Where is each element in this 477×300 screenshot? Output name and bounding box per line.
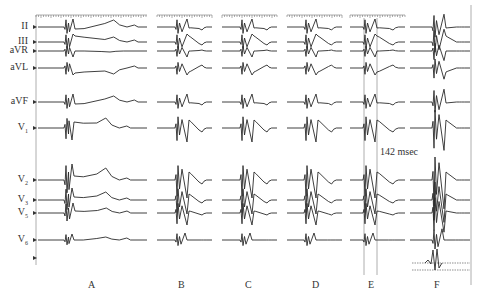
trace-v1 xyxy=(222,117,277,142)
trace-v1 xyxy=(410,110,470,150)
trace-iii xyxy=(287,34,342,48)
trace-avr xyxy=(350,46,405,57)
trace-v2 xyxy=(410,157,470,209)
lead-marker-icon xyxy=(33,100,37,104)
trace-v2 xyxy=(38,164,147,193)
panel-f-traces xyxy=(410,14,470,249)
trace-ii xyxy=(287,19,342,33)
lead-marker-icon xyxy=(33,178,37,182)
trace-avr xyxy=(287,46,342,57)
trace-avr xyxy=(157,46,212,57)
trace-avf xyxy=(157,94,212,108)
panel-label-f: F xyxy=(434,279,440,290)
trace-v3 xyxy=(38,188,147,210)
trace-ii xyxy=(350,19,405,33)
panel-label-b: B xyxy=(178,279,185,290)
trace-v3 xyxy=(410,182,470,222)
trace-iii xyxy=(157,34,212,48)
lead-label-avf: aVF xyxy=(0,96,28,106)
lead-marker-icon xyxy=(33,126,37,130)
panel-f-inset xyxy=(412,249,470,270)
trace-v6 xyxy=(38,234,147,245)
lead-label-avl: aVL xyxy=(0,62,28,72)
lead-marker-icon xyxy=(33,25,37,29)
trace-v5 xyxy=(38,203,147,221)
trace-avf xyxy=(222,94,277,108)
panel-label-d: D xyxy=(312,279,319,290)
trace-v2 xyxy=(350,166,405,198)
trace-iii xyxy=(38,34,147,48)
lead-marker-icon xyxy=(33,256,37,260)
trace-v6 xyxy=(287,233,342,246)
lead-marker-icon xyxy=(33,238,37,242)
panel-b-traces xyxy=(157,19,212,246)
trace-v2 xyxy=(157,166,212,198)
trace-ii xyxy=(38,19,147,33)
trace-v6 xyxy=(157,233,212,246)
trace-avl xyxy=(287,62,342,75)
trace-v5 xyxy=(350,203,405,225)
lead-marker-icon xyxy=(33,211,37,215)
trace-ii xyxy=(222,19,277,33)
lead-label-v2: V2 xyxy=(0,174,28,188)
lead-label-v5: V5 xyxy=(0,207,28,221)
lead-label-v1: V1 xyxy=(0,122,28,136)
trace-avf xyxy=(38,94,147,108)
trace-v3 xyxy=(157,189,212,214)
trace-v2 xyxy=(222,166,277,198)
panel-d-traces xyxy=(287,19,342,246)
panel-e-traces xyxy=(350,19,405,246)
trace-v3 xyxy=(350,189,405,214)
trace-avf xyxy=(350,94,405,108)
lead-marker-icon xyxy=(33,49,37,53)
lead-label-v6: V6 xyxy=(0,234,28,248)
panel-a-traces xyxy=(38,19,147,245)
lead-label-avr: aVR xyxy=(0,45,28,55)
trace-v1 xyxy=(350,117,405,142)
trace-v6 xyxy=(222,233,277,246)
trace-iii xyxy=(350,34,405,48)
trace-v1 xyxy=(157,117,212,142)
trace-avl xyxy=(222,62,277,75)
trace-v3 xyxy=(222,189,277,214)
trace-avl xyxy=(410,59,470,79)
trace-avf xyxy=(410,89,470,112)
lead-marker-icon xyxy=(33,66,37,70)
trace-avl xyxy=(157,62,212,75)
interval-annotation: 142 msec xyxy=(380,146,418,157)
trace-v2 xyxy=(287,166,342,198)
trace-avf xyxy=(287,94,342,108)
lead-marker-icon xyxy=(33,198,37,202)
trace-avr xyxy=(222,46,277,57)
trace-avl xyxy=(38,62,147,75)
panel-label-a: A xyxy=(88,279,95,290)
trace-avr xyxy=(38,46,147,57)
lead-label-ii: II xyxy=(0,21,28,31)
panel-c-traces xyxy=(222,19,277,246)
lead-marker-icon xyxy=(33,40,37,44)
trace-ii xyxy=(157,19,212,33)
trace-ii xyxy=(410,14,470,37)
trace-v6 xyxy=(410,229,470,249)
panel-label-c: C xyxy=(245,279,252,290)
trace-v6 xyxy=(350,233,405,246)
panel-label-e: E xyxy=(368,279,374,290)
trace-v5 xyxy=(157,203,212,225)
trace-v3 xyxy=(287,189,342,214)
trace-iii xyxy=(222,34,277,48)
trace-v5 xyxy=(222,203,277,225)
trace-avl xyxy=(350,62,405,75)
trace-v1 xyxy=(38,118,147,140)
ecg-figure: IIIIIaVRaVLaVFV1V2V3V5V6 ABCDEF 142 msec xyxy=(0,0,477,300)
trace-v1 xyxy=(287,117,342,142)
trace-v5 xyxy=(410,198,470,233)
